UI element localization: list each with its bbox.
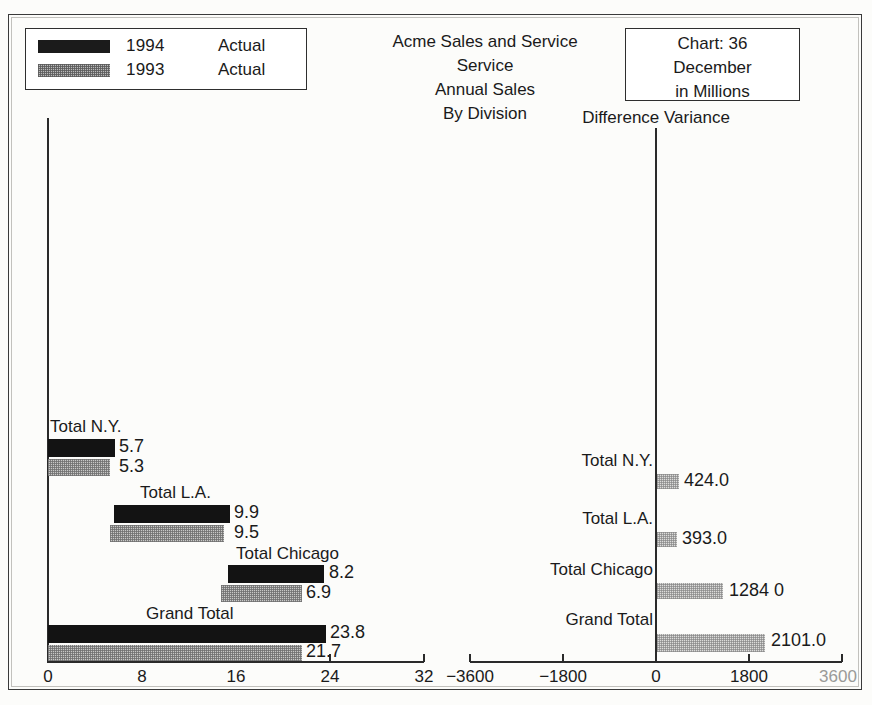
bar-value-1993-total-chicago: 6.9 [306,582,331,603]
group-label-total-chicago: Total Chicago [236,544,339,564]
variance-bar-total-la [657,532,677,547]
left-tick-label-32: 32 [415,667,434,687]
right-tick-label-0: 0 [651,667,660,687]
bar-value-1994-total-chicago: 8.2 [329,562,354,583]
variance-bar-total-ny [657,474,679,489]
variance-bar-total-chicago [657,583,723,599]
variance-label-total-la: Total L.A. [582,509,653,529]
bar-1994-total-ny [48,439,115,457]
chart-number: Chart: 36 [626,32,799,56]
variance-value-grand-total: 2101.0 [771,630,826,651]
legend-kind-1994: Actual [218,36,265,56]
legend-kind-1993: Actual [218,60,265,80]
variance-value-total-la: 393.0 [682,528,727,549]
right-tick-label-3600: 3600 [819,667,857,687]
variance-label-total-ny: Total N.Y. [581,451,653,471]
title-line-1: Acme Sales and Service [350,30,620,54]
variance-bar-grand-total [657,634,765,652]
right-tick-label-1800: 1800 [730,667,768,687]
legend-box: 1994 Actual 1993 Actual [25,28,307,90]
bar-1993-total-la [110,525,224,542]
variance-zero-line [655,128,657,662]
legend-year-1994: 1994 [126,36,218,56]
right-tick-0 [655,652,657,662]
legend-item-1994: 1994 Actual [38,37,265,55]
group-label-total-ny: Total N.Y. [50,417,122,437]
bar-value-1994-total-ny: 5.7 [119,436,144,457]
bar-1993-total-ny [48,459,110,476]
variance-value-total-ny: 424.0 [684,470,729,491]
chart-page: 1994 Actual 1993 Actual Acme Sales and S… [0,0,872,705]
bar-1994-total-chicago [228,565,324,583]
chart-info-box: Chart: 36 December in Millions [625,28,800,101]
left-panel-y-axis [47,118,49,662]
chart-period: December [626,56,799,80]
bar-value-1994-grand-total: 23.8 [330,622,365,643]
right-tick-label-neg3600: −3600 [446,667,494,687]
title-line-3: Annual Sales [350,78,620,102]
bar-1994-total-la [114,505,230,523]
bar-value-1994-total-la: 9.9 [234,502,259,523]
bar-value-1993-grand-total: 21.7 [306,641,341,662]
bar-1993-total-chicago [221,585,302,602]
legend-year-1993: 1993 [126,60,218,80]
variance-value-total-chicago: 1284 0 [729,580,784,601]
chart-units: in Millions [626,80,799,104]
left-tick-32 [423,654,425,662]
right-tick-neg1800 [562,654,564,662]
left-tick-label-8: 8 [137,667,146,687]
variance-label-grand-total: Grand Total [565,610,653,630]
solid-black-swatch-icon [38,40,110,53]
group-label-total-la: Total L.A. [140,483,211,503]
right-tick-1800 [748,654,750,662]
legend-item-1993: 1993 Actual [38,61,265,79]
title-line-2: Service [350,54,620,78]
right-tick-neg3600 [469,654,471,662]
bar-1994-grand-total [48,625,326,643]
bar-1993-grand-total [48,645,302,661]
group-label-grand-total: Grand Total [146,604,234,624]
right-tick-3600 [841,654,843,662]
left-tick-label-0: 0 [43,667,52,687]
right-tick-label-neg1800: −1800 [539,667,587,687]
bar-value-1993-total-ny: 5.3 [119,456,144,477]
left-tick-label-24: 24 [321,667,340,687]
bar-value-1993-total-la: 9.5 [234,522,259,543]
dotted-gray-swatch-icon [38,64,110,77]
variance-label-total-chicago: Total Chicago [550,560,653,580]
variance-panel-title: Difference Variance [556,108,756,128]
left-tick-label-16: 16 [227,667,246,687]
